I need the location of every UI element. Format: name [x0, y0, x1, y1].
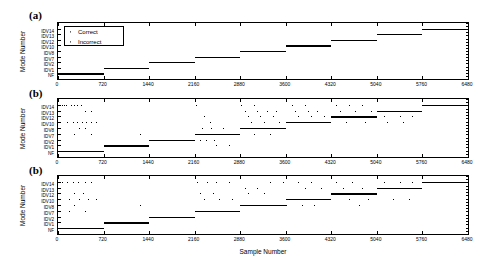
incorrect-point [254, 134, 255, 135]
incorrect-point [317, 111, 318, 112]
incorrect-point [362, 105, 363, 106]
incorrect-point [314, 122, 315, 123]
x-tick-label: 3600 [279, 160, 290, 165]
y-tick-label: IDV7 [44, 135, 54, 140]
x-tick-label: 720 [98, 160, 106, 165]
legend-item-incorrect: Incorrect [65, 37, 123, 46]
x-tick-mark-top [286, 176, 287, 179]
incorrect-point [74, 105, 75, 106]
panel-c-label: (b) [29, 165, 42, 176]
incorrect-point [352, 182, 353, 183]
y-tick-label: IDV8 [44, 52, 54, 57]
x-tick-label: 2880 [234, 82, 245, 87]
incorrect-point [196, 105, 197, 106]
incorrect-point [295, 111, 296, 112]
y-tick-mark [58, 34, 61, 35]
incorrect-point [229, 145, 230, 146]
incorrect-point [74, 193, 75, 194]
correct-segment [149, 62, 195, 63]
incorrect-point [346, 122, 347, 123]
y-tick-mark [58, 116, 61, 117]
figure-root: (a) Mode Number NFIDV1IDV2IDV7IDV8IDV10I… [0, 0, 478, 273]
y-tick-mark [58, 111, 61, 112]
x-tick-label: 6480 [461, 237, 472, 242]
incorrect-point [273, 205, 274, 206]
y-tick-mark [58, 193, 61, 194]
incorrect-point [85, 182, 86, 183]
incorrect-point [302, 122, 303, 123]
y-tick-label: IDV8 [44, 206, 54, 211]
x-tick-mark-top [422, 23, 423, 26]
incorrect-point [406, 111, 407, 112]
y-tick-mark [58, 140, 61, 141]
incorrect-point [248, 193, 249, 194]
incorrect-point [69, 211, 70, 212]
y-minor-tick [466, 51, 468, 52]
x-tick-label: 2160 [188, 237, 199, 242]
correct-segment [331, 40, 377, 41]
x-tick-mark-top [422, 176, 423, 179]
x-tick-label: 4320 [325, 82, 336, 87]
x-tick-mark [149, 154, 150, 157]
y-minor-tick [466, 157, 468, 158]
incorrect-point [67, 182, 68, 183]
y-minor-tick [466, 67, 468, 68]
incorrect-point [200, 193, 201, 194]
y-tick-mark [58, 199, 61, 200]
y-minor-tick [466, 205, 468, 206]
x-tick-mark [195, 231, 196, 234]
y-minor-tick [466, 112, 468, 113]
y-tick-mark [58, 182, 61, 183]
y-tick-label: IDV13 [41, 35, 54, 40]
incorrect-point [62, 182, 63, 183]
x-tick-mark [468, 76, 469, 79]
y-tick-label: IDV1 [44, 146, 54, 151]
x-tick-label: 4320 [325, 160, 336, 165]
x-tick-mark [240, 154, 241, 157]
x-tick-mark-top [149, 23, 150, 26]
y-tick-label: IDV10 [41, 123, 54, 128]
incorrect-point [305, 105, 306, 106]
y-tick-mark [58, 57, 61, 58]
incorrect-point [305, 188, 306, 189]
x-tick-label: 2880 [234, 160, 245, 165]
incorrect-point [241, 105, 242, 106]
incorrect-point [77, 122, 78, 123]
y-tick-label: IDV2 [44, 63, 54, 68]
incorrect-point [91, 134, 92, 135]
incorrect-point [324, 116, 325, 117]
incorrect-point [64, 105, 65, 106]
incorrect-point [336, 105, 337, 106]
x-tick-mark [468, 154, 469, 157]
x-tick-mark [286, 76, 287, 79]
incorrect-point [207, 182, 208, 183]
y-minor-tick [466, 192, 468, 193]
incorrect-point [349, 199, 350, 200]
y-tick-label: IDV1 [44, 223, 54, 228]
incorrect-point [343, 188, 344, 189]
y-minor-tick [466, 63, 468, 64]
incorrect-point [264, 193, 265, 194]
incorrect-point [85, 211, 86, 212]
incorrect-point [381, 111, 382, 112]
y-tick-label: IDV12 [41, 117, 54, 122]
x-tick-label: 6480 [461, 160, 472, 165]
incorrect-point [257, 111, 258, 112]
y-minor-tick [466, 141, 468, 142]
incorrect-point [245, 188, 246, 189]
x-tick-mark-top [331, 23, 332, 26]
y-minor-tick [466, 211, 468, 212]
x-tick-mark [195, 154, 196, 157]
panel-c-y-tick-labels: NFIDV1IDV2IDV7IDV8IDV10IDV12IDV13IDV14 [28, 177, 54, 233]
incorrect-point [368, 199, 369, 200]
incorrect-point [77, 105, 78, 106]
correct-segment [149, 217, 195, 218]
x-tick-label: 4320 [325, 237, 336, 242]
y-tick-mark [58, 29, 61, 30]
incorrect-point [276, 111, 277, 112]
y-minor-tick [466, 115, 468, 116]
x-tick-mark-top [149, 176, 150, 179]
panel-b-x-tick-labels: 072014402160288036004320504057606480 [57, 160, 469, 168]
incorrect-point [279, 122, 280, 123]
incorrect-point [298, 116, 299, 117]
